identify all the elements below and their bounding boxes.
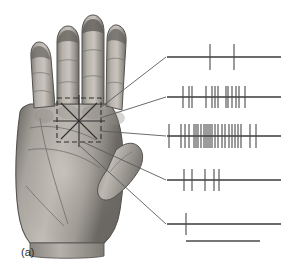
panel-label: (a): [21, 246, 34, 259]
spike-train-panel: [0, 0, 296, 272]
figure-panel-a: (a): [0, 0, 296, 272]
leader-line-3: [101, 131, 166, 136]
leader-lines: [79, 57, 166, 224]
spike-trace-5: [167, 213, 281, 235]
spike-trace-3: [167, 124, 281, 148]
leader-line-5: [79, 145, 166, 224]
spike-trace-2: [167, 86, 281, 108]
spike-trace-4: [167, 169, 281, 191]
spike-trace-1: [167, 44, 281, 70]
leader-line-4: [83, 142, 166, 180]
